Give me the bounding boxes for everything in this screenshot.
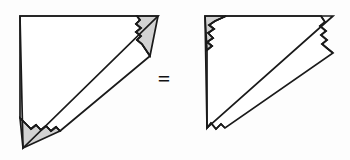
right-figure-group	[205, 16, 333, 129]
left-figure-group	[20, 16, 158, 148]
left-main-region	[20, 16, 150, 131]
dissection-diagram: =	[0, 0, 350, 160]
figure-canvas: =	[0, 0, 350, 160]
equals-symbol: =	[158, 66, 171, 91]
